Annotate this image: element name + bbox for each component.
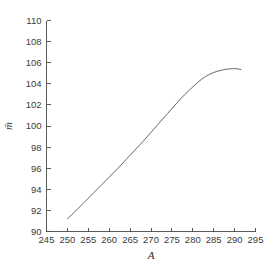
x-tick-label: 275 [164, 234, 180, 245]
y-tick-label: 102 [26, 99, 42, 110]
y-tick-label: 110 [26, 15, 41, 26]
y-tick-label: 100 [26, 120, 42, 131]
x-axis-title: A [147, 249, 155, 261]
x-tick-label: 280 [185, 234, 201, 245]
x-tick-label: 250 [59, 234, 75, 245]
x-tick-label: 285 [206, 234, 222, 245]
y-tick-label: 92 [31, 205, 42, 216]
y-tick-label: 104 [26, 78, 42, 89]
x-tick-label: 290 [227, 234, 243, 245]
y-tick-label: 90 [31, 226, 42, 237]
x-axis-tick-labels: 245250255260265270275280285290295 [39, 234, 264, 245]
x-tick-label: 265 [122, 234, 138, 245]
y-tick-label: 96 [31, 163, 42, 174]
x-tick-label: 260 [101, 234, 117, 245]
y-axis-title: m̄ [2, 122, 14, 130]
chart-figure: 245250255260265270275280285290295 909294… [0, 0, 271, 273]
y-tick-label: 98 [31, 142, 42, 153]
y-tick-label: 108 [26, 36, 42, 47]
line-chart-plot: 245250255260265270275280285290295 909294… [0, 0, 271, 273]
y-tick-label: 106 [26, 57, 42, 68]
x-tick-label: 295 [248, 234, 264, 245]
x-tick-label: 255 [80, 234, 96, 245]
x-tick-label: 270 [143, 234, 159, 245]
y-tick-label: 94 [31, 184, 42, 195]
